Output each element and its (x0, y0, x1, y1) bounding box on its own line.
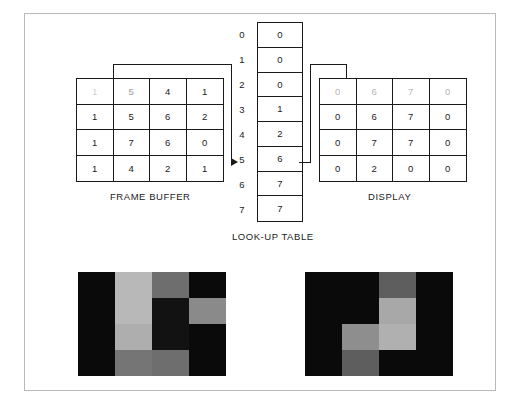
display-cell: 0 (320, 105, 357, 131)
raster-pixel (78, 350, 115, 376)
raster-pixel (416, 350, 453, 376)
raster-pixel (416, 324, 453, 350)
raster-pixel (152, 298, 189, 324)
raster-pixel (152, 272, 189, 298)
raster-pixel (379, 324, 416, 350)
frame-buffer-cell: 4 (114, 156, 151, 182)
raster-pixel (152, 350, 189, 376)
display-cell: 0 (393, 156, 430, 182)
raster-pixel (379, 350, 416, 376)
lookup-table-cell: 2 (258, 122, 302, 147)
lookup-table-index-column: 0 1 2 3 4 5 6 7 (232, 22, 252, 222)
frame-buffer-table: 1 5 4 1 1 5 6 2 1 7 6 0 1 4 2 1 (76, 78, 224, 182)
display-cell: 0 (430, 79, 467, 105)
lookup-table-cell: 7 (258, 172, 302, 197)
raster-pixel (305, 324, 342, 350)
lookup-table-cell: 1 (258, 97, 302, 122)
raster-pixel (189, 298, 226, 324)
raster-pixel (305, 272, 342, 298)
frame-buffer-cell: 1 (187, 156, 224, 182)
connector-frame-buffer-to-lut (113, 64, 232, 65)
frame-buffer-cell: 2 (187, 105, 224, 131)
frame-buffer-caption: FRAME BUFFER (110, 191, 191, 202)
frame-buffer-cell: 1 (77, 130, 114, 156)
frame-buffer-cell: 6 (150, 105, 187, 131)
raster-pixel (305, 298, 342, 324)
connector-frame-buffer-riser (113, 64, 114, 79)
lookup-table-index: 4 (232, 122, 252, 147)
raster-pixel (189, 350, 226, 376)
raster-pixel (342, 350, 379, 376)
display-cell: 7 (393, 79, 430, 105)
raster-pixel (379, 272, 416, 298)
raster-pixel (342, 272, 379, 298)
lookup-table-caption: LOOK-UP TABLE (232, 231, 314, 242)
raster-pixel (189, 324, 226, 350)
frame-buffer-cell: 7 (114, 130, 151, 156)
frame-buffer-cell: 5 (114, 105, 151, 131)
display-cell: 0 (320, 79, 357, 105)
raster-pixel (305, 350, 342, 376)
lookup-table-index-highlighted: 5 (232, 147, 252, 172)
display-raster-image (305, 272, 453, 376)
raster-pixel (78, 272, 115, 298)
display-caption: DISPLAY (368, 191, 411, 202)
lookup-table-index: 7 (232, 197, 252, 222)
lookup-table-cell: 0 (258, 73, 302, 98)
display-cell: 7 (393, 105, 430, 131)
raster-pixel (115, 324, 152, 350)
raster-pixel (416, 272, 453, 298)
connector-lut-to-display (310, 64, 347, 65)
frame-buffer-cell: 1 (187, 79, 224, 105)
lookup-table-index: 6 (232, 172, 252, 197)
raster-pixel (115, 350, 152, 376)
lookup-table-cell: 0 (258, 48, 302, 73)
connector-lut-riser (310, 64, 311, 163)
display-cell: 0 (430, 105, 467, 131)
lookup-table-index: 2 (232, 72, 252, 97)
lookup-table-index: 1 (232, 47, 252, 72)
frame-buffer-cell: 0 (187, 130, 224, 156)
display-cell: 7 (393, 130, 430, 156)
frame-buffer-cell: 4 (150, 79, 187, 105)
frame-buffer-cell: 1 (77, 105, 114, 131)
raster-pixel (78, 298, 115, 324)
lookup-table: 0 0 0 1 2 6 7 7 (257, 22, 303, 222)
raster-pixel (115, 298, 152, 324)
display-table: 0 6 7 0 0 6 7 0 0 7 7 0 0 2 0 0 (319, 78, 467, 182)
raster-pixel (115, 272, 152, 298)
raster-pixel (342, 298, 379, 324)
raster-pixel (78, 324, 115, 350)
display-cell: 0 (430, 130, 467, 156)
frame-buffer-cell: 6 (150, 130, 187, 156)
display-cell: 0 (320, 130, 357, 156)
display-cell: 6 (357, 105, 394, 131)
display-cell: 6 (357, 79, 394, 105)
lookup-table-index: 0 (232, 22, 252, 47)
raster-pixel (152, 324, 189, 350)
raster-pixel (342, 324, 379, 350)
raster-pixel (379, 298, 416, 324)
frame-buffer-raster-image (78, 272, 226, 376)
lookup-table-index: 3 (232, 97, 252, 122)
connector-display-drop (346, 64, 347, 79)
frame-buffer-cell: 2 (150, 156, 187, 182)
raster-pixel (189, 272, 226, 298)
frame-buffer-cell: 1 (77, 156, 114, 182)
figure-page: 1 5 4 1 1 5 6 2 1 7 6 0 1 4 2 1 FRAME BU… (0, 0, 519, 416)
frame-buffer-cell: 1 (77, 79, 114, 105)
raster-pixel (416, 298, 453, 324)
display-cell: 2 (357, 156, 394, 182)
display-cell: 7 (357, 130, 394, 156)
display-cell: 0 (320, 156, 357, 182)
frame-buffer-cell: 5 (114, 79, 151, 105)
lookup-table-cell-highlighted: 6 (258, 147, 302, 172)
lookup-table-cell: 7 (258, 196, 302, 221)
display-cell: 0 (430, 156, 467, 182)
lookup-table-cell: 0 (258, 23, 302, 48)
